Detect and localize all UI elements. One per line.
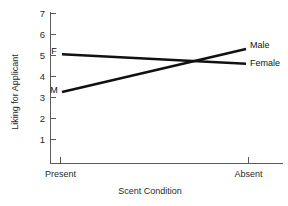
y-tick-label-1: 1	[40, 134, 45, 145]
line-chart: 7 6 5 4 3 2 1 Present Absent Scent Condi…	[0, 0, 288, 206]
chart-canvas: 7 6 5 4 3 2 1 Present Absent Scent Condi…	[0, 0, 288, 206]
x-tick-label-absent: Absent	[234, 169, 263, 179]
x-tick-label-present: Present	[45, 169, 77, 179]
y-tick-label-7: 7	[40, 8, 45, 19]
series-end-label-female: Female	[250, 58, 280, 68]
y-tick-label-5: 5	[40, 50, 45, 61]
y-tick-label-6: 6	[40, 29, 45, 40]
series-start-label-female: F	[51, 46, 57, 56]
x-axis-title: Scent Condition	[118, 186, 182, 196]
series-start-label-male: M	[50, 85, 58, 95]
series-end-label-male: Male	[250, 40, 270, 50]
y-axis-title: Liking for Applicant	[10, 54, 20, 130]
y-tick-label-4: 4	[40, 71, 45, 82]
y-tick-label-2: 2	[40, 113, 45, 124]
y-tick-label-3: 3	[40, 92, 45, 103]
